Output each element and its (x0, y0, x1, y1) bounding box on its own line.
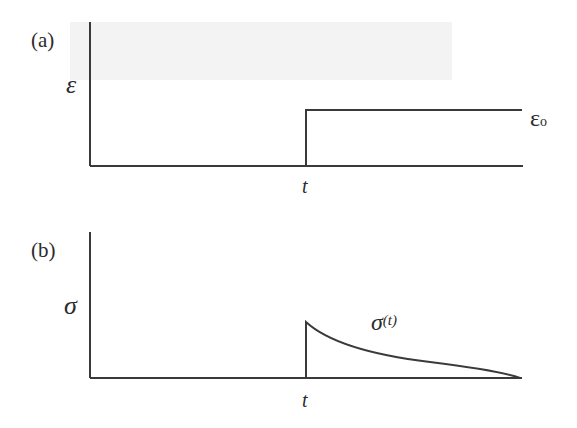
panel-b-y-axis-symbol: σ (64, 293, 77, 319)
panel-b-curve-argument: (t) (383, 312, 397, 328)
panel-a-curve-label: εo (530, 106, 547, 130)
panel-b-curve-symbol: σ (371, 309, 383, 335)
panel-b-curve-label: σ(t) (371, 310, 397, 334)
panel-b-relaxation-curve (306, 322, 520, 378)
panel-a-curve-subscript: o (540, 114, 547, 129)
panel-a-label: (a) (31, 30, 54, 51)
panel-a-curve-symbol: ε (530, 105, 540, 131)
panel-b-label: (b) (31, 240, 56, 261)
panel-a-y-axis-symbol: ε (66, 72, 76, 98)
diagram-canvas (0, 0, 577, 428)
panel-a-step-curve (306, 110, 522, 166)
panel-a-x-tick-label: t (302, 176, 308, 196)
panel-b-x-tick-label: t (302, 390, 308, 410)
